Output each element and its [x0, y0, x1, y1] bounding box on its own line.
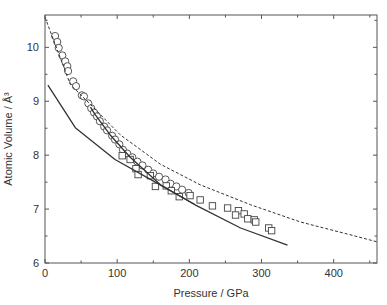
- x-tick-label: 0: [42, 267, 48, 279]
- x-tick-label: 200: [180, 267, 198, 279]
- square-point: [268, 227, 274, 233]
- y-tick-label: 10: [27, 41, 39, 53]
- series-layer: [45, 17, 378, 245]
- square-point: [119, 153, 125, 159]
- chart: 0100200300400678910 Pressure / GPa Atomi…: [0, 0, 387, 305]
- x-tick-label: 100: [108, 267, 126, 279]
- y-tick-label: 6: [33, 257, 39, 269]
- axes: 0100200300400678910: [27, 15, 377, 279]
- square-point: [209, 203, 215, 209]
- square-point: [224, 205, 230, 211]
- x-tick-label: 400: [325, 267, 343, 279]
- y-tick-label: 9: [33, 95, 39, 107]
- y-tick-label: 7: [33, 203, 39, 215]
- square-point: [253, 219, 259, 225]
- square-point: [232, 212, 238, 218]
- x-tick-label: 300: [252, 267, 270, 279]
- y-axis-title: Atomic Volume / Å³: [2, 92, 14, 186]
- square-point: [245, 216, 251, 222]
- square-point: [187, 192, 193, 198]
- x-axis-title: Pressure / GPa: [173, 287, 249, 299]
- circle-point: [72, 83, 79, 90]
- y-tick-label: 8: [33, 149, 39, 161]
- plot-frame: [45, 15, 377, 263]
- square-point: [197, 197, 203, 203]
- circle-point: [80, 93, 87, 100]
